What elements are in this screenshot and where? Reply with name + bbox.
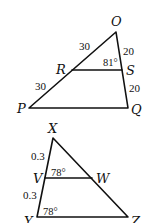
vertex-label-s: S bbox=[126, 63, 135, 78]
segment-label-xv: 0.3 bbox=[31, 150, 45, 162]
segment-label-or: 30 bbox=[79, 40, 91, 52]
angle-label-rso: 81° bbox=[103, 57, 118, 68]
segment-label-rp: 30 bbox=[35, 80, 47, 92]
vertex-label-o: O bbox=[111, 14, 122, 29]
angle-label-xyz: 78° bbox=[43, 206, 58, 217]
segment-label-sq: 20 bbox=[129, 82, 141, 94]
triangle-xyz: X V W Y Z 0.3 0.3 78° 78° bbox=[23, 121, 141, 223]
segment-label-os: 20 bbox=[123, 45, 135, 57]
vertex-label-p: P bbox=[16, 101, 26, 116]
vertex-label-y: Y bbox=[24, 214, 34, 223]
segment-label-vy: 0.3 bbox=[23, 189, 37, 201]
vertex-label-x: X bbox=[47, 121, 58, 136]
vertex-label-r: R bbox=[55, 62, 66, 77]
geometry-diagram: O R S P Q 30 30 20 20 81° X V W Y Z 0.3 … bbox=[0, 0, 151, 223]
vertex-label-q: Q bbox=[131, 102, 142, 117]
vertex-label-z: Z bbox=[130, 214, 141, 223]
vertex-label-w: W bbox=[96, 171, 111, 186]
triangle-opq: O R S P Q 30 30 20 20 81° bbox=[16, 14, 142, 117]
angle-label-xvw: 78° bbox=[51, 167, 66, 178]
vertex-label-v: V bbox=[33, 171, 44, 186]
